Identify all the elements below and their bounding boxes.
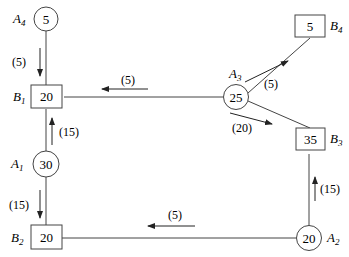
node-A3: 25 A3 <box>224 66 249 110</box>
node-A4: 5 A4 <box>12 7 58 31</box>
edges <box>46 31 310 238</box>
flow-label-A3-B3: (20) <box>232 121 252 135</box>
node-label: B4 <box>330 18 343 35</box>
edge-A3-B3 <box>248 101 310 128</box>
node-label: B2 <box>11 230 24 247</box>
node-value: 5 <box>43 12 50 27</box>
node-A2: 20 A2 <box>297 226 340 251</box>
node-B4: 5 B4 <box>295 15 343 37</box>
node-value: 25 <box>230 90 243 105</box>
node-label: A3 <box>228 66 242 83</box>
node-label: B1 <box>13 89 25 106</box>
flow-label-A2-B3: (15) <box>320 182 340 196</box>
node-B2: 20 B2 <box>11 225 62 249</box>
node-value: 20 <box>40 89 53 104</box>
flow-labels: (5) (15) (15) (5) (5) (20) (15) (5) <box>9 55 340 222</box>
node-A1: 30 A1 <box>10 151 59 177</box>
flow-label-A1-B2: (15) <box>9 198 29 212</box>
node-B3: 35 B3 <box>296 128 343 150</box>
node-value: 35 <box>304 132 317 147</box>
flow-label-A3-B1: (5) <box>121 73 135 87</box>
node-value: 5 <box>307 19 314 34</box>
node-value: 20 <box>303 231 316 246</box>
flow-label-A3-B4: (5) <box>264 77 278 91</box>
node-value: 30 <box>40 157 53 172</box>
flow-label-A2-B2: (5) <box>168 208 182 222</box>
flow-arrows <box>40 48 315 226</box>
node-label: A4 <box>12 11 26 28</box>
node-label: B3 <box>330 131 343 148</box>
flow-label-A1-B1: (15) <box>59 125 79 139</box>
node-value: 20 <box>40 230 53 245</box>
node-B1: 20 B1 <box>13 85 62 108</box>
transport-flow-diagram: 5 A4 30 A1 25 A3 20 A2 20 B1 20 B2 35 B3… <box>0 0 349 257</box>
node-label: A2 <box>326 230 340 247</box>
flow-label-A4-B1: (5) <box>12 55 26 69</box>
node-label: A1 <box>10 156 23 173</box>
